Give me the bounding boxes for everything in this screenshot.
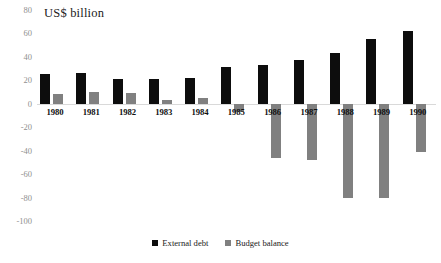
y-axis-tick-label: 0: [28, 99, 32, 109]
y-axis-tick-label: -40: [21, 146, 32, 156]
bar-budget-balance: [89, 92, 99, 104]
y-axis-tick-label: 60: [24, 28, 33, 38]
bar-external-debt: [113, 79, 123, 104]
bar-external-debt: [330, 53, 340, 103]
y-axis-tick-label: 20: [24, 75, 33, 85]
bar-external-debt: [149, 79, 159, 104]
bar-budget-balance: [198, 98, 208, 104]
y-axis-tick-label: 80: [24, 5, 33, 15]
chart-container: US$ billion 806040200-20-40-60-80-100 19…: [0, 0, 441, 263]
x-axis-tick-label: 1988: [327, 107, 363, 117]
bar-group: 1987: [291, 0, 327, 231]
x-axis-tick-label: 1989: [363, 107, 399, 117]
bar-group: 1984: [182, 0, 218, 231]
bar-budget-balance: [343, 104, 353, 198]
bar-group: 1990: [400, 0, 436, 231]
chart-legend: External debtBudget balance: [0, 238, 441, 248]
bar-group: 1989: [363, 0, 399, 231]
y-axis-tick-label: -20: [21, 122, 32, 132]
x-axis-tick-label: 1982: [110, 107, 146, 117]
bar-external-debt: [221, 67, 231, 103]
bar-external-debt: [185, 78, 195, 104]
x-axis-tick-label: 1981: [73, 107, 109, 117]
legend-label: External debt: [162, 238, 208, 248]
y-axis-tick-label: -80: [21, 193, 32, 203]
x-axis-tick-label: 1984: [182, 107, 218, 117]
bar-group: 1980: [37, 0, 73, 231]
bar-external-debt: [403, 31, 413, 104]
legend-label: Budget balance: [235, 238, 288, 248]
bar-budget-balance: [162, 100, 172, 104]
bar-group: 1981: [73, 0, 109, 231]
x-axis-tick-label: 1985: [218, 107, 254, 117]
bar-group: 1983: [146, 0, 182, 231]
x-axis-tick-label: 1986: [255, 107, 291, 117]
square-marker-icon: [152, 240, 158, 246]
bar-budget-balance: [126, 93, 136, 104]
square-marker-icon: [225, 240, 231, 246]
x-axis-tick-label: 1990: [400, 107, 436, 117]
y-axis-tick-label: 40: [24, 52, 33, 62]
legend-item: External debt: [152, 238, 208, 248]
bar-group: 1985: [218, 0, 254, 231]
y-axis: 806040200-20-40-60-80-100: [0, 0, 37, 231]
bar-group: 1988: [327, 0, 363, 231]
legend-item: Budget balance: [225, 238, 288, 248]
bar-external-debt: [294, 60, 304, 103]
bar-budget-balance: [379, 104, 389, 198]
x-axis-tick-label: 1983: [146, 107, 182, 117]
bar-external-debt: [76, 73, 86, 103]
bar-group: 1982: [110, 0, 146, 231]
plot-area: 1980198119821983198419851986198719881989…: [37, 0, 436, 231]
bar-external-debt: [366, 39, 376, 103]
x-axis-tick-label: 1980: [37, 107, 73, 117]
bar-budget-balance: [53, 94, 63, 103]
y-axis-tick-label: -100: [16, 216, 32, 226]
y-axis-tick-label: -60: [21, 169, 32, 179]
x-axis-tick-label: 1987: [291, 107, 327, 117]
bar-external-debt: [40, 74, 50, 103]
bar-group: 1986: [255, 0, 291, 231]
bar-external-debt: [258, 65, 268, 104]
